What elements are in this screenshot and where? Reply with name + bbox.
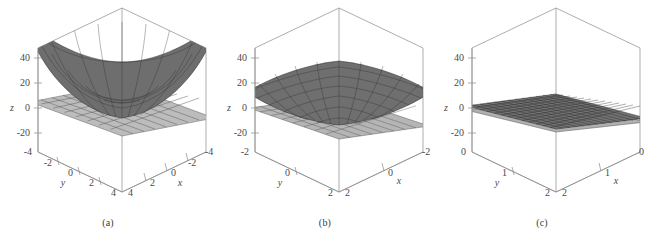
plot-b-x-axis: 2 0 -2 x xyxy=(339,146,430,198)
plot-b-caption: (b) xyxy=(217,217,433,228)
plot-c-y-tick-2: 2 xyxy=(545,187,550,198)
plot-b-canvas: 40 20 0 -20 z -2 0 2 y 2 0 -2 x xyxy=(217,0,433,210)
plot-a-caption: (a) xyxy=(0,217,216,228)
plot-b-z-tick-neg20: -20 xyxy=(234,127,247,138)
plot-a-y-axis-label: y xyxy=(60,177,66,188)
plot-a-z-tick-0: 0 xyxy=(25,102,30,113)
plot-b-z-tick-0: 0 xyxy=(242,102,247,113)
plot-a-y-tick-4: 4 xyxy=(111,187,116,198)
plot-c-caption: (c) xyxy=(434,217,650,228)
plot-a-x-tick-4: 4 xyxy=(128,187,133,198)
plot-c-x-tick-2: 2 xyxy=(562,187,567,198)
plot-a-x-tick-neg4: -4 xyxy=(205,146,213,157)
plot-a-z-tick-20: 20 xyxy=(20,77,30,88)
plot-b-y-axis-label: y xyxy=(277,177,283,188)
plot-a-x-axis-label: x xyxy=(177,177,183,188)
plot-b-z-axis-label: z xyxy=(226,102,231,113)
plot-c-z-axis: 40 20 0 -20 z xyxy=(443,48,476,152)
plot-b-x-tick-neg2: -2 xyxy=(422,146,430,157)
plot-a-y-tick-0: 0 xyxy=(68,167,73,178)
plot-c-x-axis-label: x xyxy=(613,175,619,186)
plot-b-y-tick-0: 0 xyxy=(285,167,290,178)
plot-c-z-tick-40: 40 xyxy=(454,52,464,63)
plot-b-y-axis: -2 0 2 y xyxy=(241,146,339,198)
plot-c-z-tick-20: 20 xyxy=(454,77,464,88)
panel-b: 40 20 0 -20 z -2 0 2 y 2 0 -2 x xyxy=(217,0,433,232)
plot-a-z-axis-label: z xyxy=(9,102,14,113)
plot-b-z-tick-40: 40 xyxy=(237,52,247,63)
plot-a-z-axis: 40 20 0 -20 z xyxy=(9,48,42,152)
plot-a-z-tick-neg20: -20 xyxy=(17,127,30,138)
plot-a-z-tick-40: 40 xyxy=(20,52,30,63)
plot-b-x-tick-2: 2 xyxy=(345,187,350,198)
plot-a-y-axis: -4 -2 0 2 4 y xyxy=(24,146,122,198)
plot-a-canvas: 40 20 0 -20 z -4 -2 0 2 4 y xyxy=(0,0,216,210)
plot-a-x-tick-neg2: -2 xyxy=(188,157,196,168)
plot-b-y-tick-2: 2 xyxy=(328,187,333,198)
plot-c-y-axis-label: y xyxy=(494,177,500,188)
plot-a-y-tick-2: 2 xyxy=(89,177,94,188)
plot-c-x-axis: 2 1 0 x xyxy=(556,146,644,198)
plot-b-z-axis: 40 20 0 -20 z xyxy=(226,48,259,152)
plot-c-y-axis: 0 1 2 y xyxy=(461,146,556,198)
plot-c-x-tick-1: 1 xyxy=(605,167,610,178)
plot-a-x-tick-0: 0 xyxy=(171,167,176,178)
plot-a-x-axis: 4 2 0 -2 -4 x xyxy=(122,146,213,198)
plot-b-z-tick-20: 20 xyxy=(237,77,247,88)
plot-b-x-tick-0: 0 xyxy=(388,167,393,178)
plot-a-x-tick-2: 2 xyxy=(150,177,155,188)
plot-c-z-tick-0: 0 xyxy=(459,102,464,113)
panel-a: 40 20 0 -20 z -4 -2 0 2 4 y xyxy=(0,0,216,232)
plot-c-canvas: 40 20 0 -20 z 0 1 2 y 2 1 0 x xyxy=(434,0,650,210)
three-panel-surface-figure: 40 20 0 -20 z -4 -2 0 2 4 y xyxy=(0,0,650,232)
plot-c-z-axis-label: z xyxy=(443,102,448,113)
plot-c-z-tick-neg20: -20 xyxy=(451,127,464,138)
plot-c-x-tick-0: 0 xyxy=(639,146,644,157)
plot-b-x-axis-label: x xyxy=(396,175,402,186)
plot-c-y-tick-1: 1 xyxy=(502,167,507,178)
panel-c: 40 20 0 -20 z 0 1 2 y 2 1 0 x xyxy=(434,0,650,232)
plot-a-y-tick-neg4: -4 xyxy=(24,146,32,157)
plot-b-y-tick-neg2: -2 xyxy=(241,146,249,157)
plot-a-y-tick-neg2: -2 xyxy=(44,157,52,168)
plot-c-y-tick-0: 0 xyxy=(461,146,466,157)
